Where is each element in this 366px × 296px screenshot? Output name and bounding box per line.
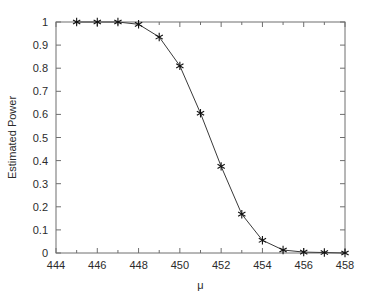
- data-point-marker: [218, 162, 225, 170]
- x-axis-label: μ: [197, 279, 203, 291]
- x-tick-label: 450: [171, 259, 189, 271]
- x-tick-label: 448: [129, 259, 147, 271]
- data-line: [77, 22, 345, 253]
- y-tick-label: 0.6: [33, 108, 48, 120]
- y-tick-label: 1: [42, 16, 48, 28]
- y-tick-label: 0.7: [33, 85, 48, 97]
- y-tick-label: 0.4: [33, 155, 48, 167]
- x-tick-label: 456: [295, 259, 313, 271]
- x-tick-label: 458: [336, 259, 354, 271]
- y-axis-label: Estimated Power: [6, 96, 18, 179]
- y-tick-label: 0.2: [33, 201, 48, 213]
- y-tick-label: 0.3: [33, 178, 48, 190]
- x-tick-label: 452: [212, 259, 230, 271]
- y-tick-label: 0.9: [33, 39, 48, 51]
- y-tick-label: 0.8: [33, 62, 48, 74]
- x-tick-label: 454: [253, 259, 271, 271]
- power-curve-chart: 444446448450452454456458 00.10.20.30.40.…: [0, 0, 366, 296]
- axis-ticks: [56, 22, 345, 253]
- y-tick-label: 0: [42, 247, 48, 259]
- plot-frame: [56, 22, 345, 253]
- y-tick-label: 0.1: [33, 224, 48, 236]
- figure-container: 444446448450452454456458 00.10.20.30.40.…: [0, 0, 366, 296]
- data-markers: [73, 18, 349, 257]
- y-tick-label: 0.5: [33, 132, 48, 144]
- x-tick-labels: 444446448450452454456458: [47, 259, 354, 271]
- x-tick-label: 446: [88, 259, 106, 271]
- data-point-marker: [197, 109, 204, 117]
- y-tick-labels: 00.10.20.30.40.50.60.70.80.91: [33, 16, 48, 259]
- x-tick-label: 444: [47, 259, 65, 271]
